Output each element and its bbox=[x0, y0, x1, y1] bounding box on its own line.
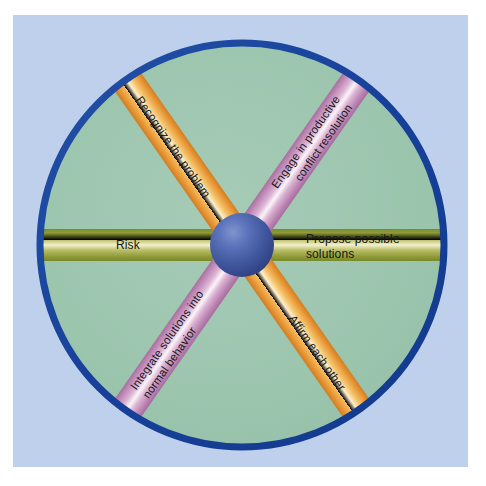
diagram-canvas: Risk Propose possible solutions Recogniz… bbox=[0, 0, 486, 486]
center-hub[interactable] bbox=[210, 213, 274, 277]
spoke-label-propose-line2: solutions bbox=[306, 247, 354, 261]
wheel-diagram: Risk Propose possible solutions Recogniz… bbox=[0, 0, 486, 486]
spoke-label-risk: Risk bbox=[116, 238, 141, 252]
spoke-label-propose-line1: Propose possible bbox=[306, 232, 400, 246]
